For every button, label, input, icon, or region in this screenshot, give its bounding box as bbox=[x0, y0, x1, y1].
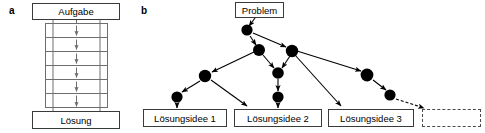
figure-vector-layer bbox=[0, 0, 485, 133]
network-node bbox=[286, 45, 298, 57]
network-node bbox=[384, 89, 395, 100]
network-node bbox=[253, 44, 265, 56]
network-node bbox=[272, 67, 284, 79]
figure-root: a Aufgabe Lösung b Problem Lösungsidee 1… bbox=[0, 0, 485, 133]
network-nodes bbox=[171, 24, 395, 102]
network-node bbox=[171, 91, 182, 102]
network-node bbox=[199, 70, 211, 82]
network-node bbox=[241, 24, 252, 35]
network-node bbox=[361, 69, 374, 82]
network-node bbox=[272, 91, 283, 102]
